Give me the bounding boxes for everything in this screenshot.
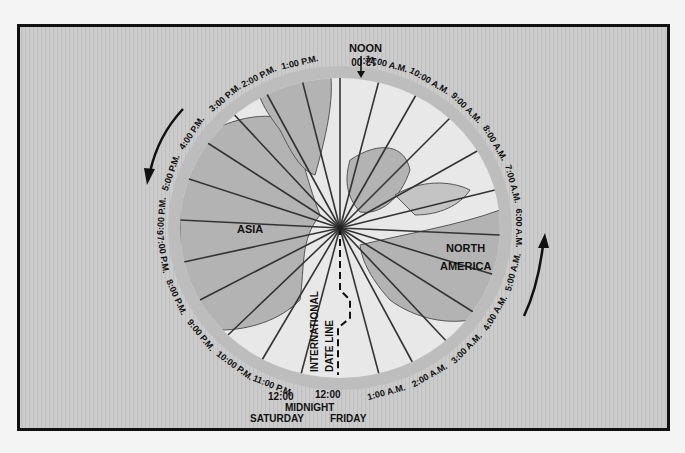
label-midnight-friday-time: 12:00: [315, 389, 341, 400]
label-noon: NOON: [349, 42, 382, 54]
label-saturday: SATURDAY: [250, 413, 304, 424]
label-international: INTERNATIONAL: [309, 291, 320, 372]
time-zone-diagram: ASIA NORTH AMERICA INTERNATIONAL DATE LI…: [0, 0, 685, 453]
label-midnight-saturday-time: 12:00: [268, 391, 294, 402]
left-arrowhead-icon: [144, 168, 155, 185]
label-north: NORTH: [446, 242, 485, 254]
label-friday: FRIDAY: [330, 413, 367, 424]
north-pole-center: [337, 225, 343, 231]
right-rotation-arrow: [524, 245, 543, 316]
label-america: AMERICA: [440, 260, 491, 272]
right-arrowhead-icon: [538, 233, 549, 248]
time-label: 6:00 A.M.: [514, 208, 524, 247]
time-label-noon: 12:00: [351, 56, 377, 67]
label-date-line: DATE LINE: [324, 320, 335, 372]
time-label: 6:00 P.M.: [155, 197, 168, 235]
label-midnight: MIDNIGHT: [285, 402, 334, 413]
label-asia: ASIA: [237, 223, 263, 235]
